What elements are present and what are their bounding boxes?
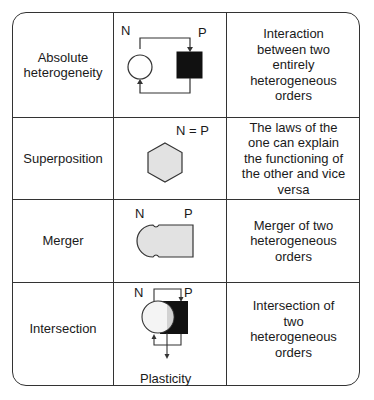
hexagon-shape — [148, 143, 182, 182]
n-label: N — [134, 285, 143, 300]
p-label: P — [184, 206, 193, 221]
p-label: P — [184, 285, 193, 300]
superposition-diagram: N = P — [140, 121, 220, 191]
description-text: Merger of two heterogeneous orders — [244, 218, 344, 265]
row-description: Intersection of two heterogeneous orders — [227, 283, 360, 375]
p-square — [177, 52, 202, 78]
row-description: The laws of the one can explain the func… — [227, 118, 360, 199]
row-name-superposition: Superposition — [13, 118, 113, 199]
row-label: Superposition — [23, 151, 103, 167]
intersection-diagram: N P Plasticity — [134, 284, 204, 388]
merged-shape — [137, 225, 193, 257]
description-text: Intersection of two heterogeneous orders — [244, 298, 344, 360]
absolute-heterogeneity-diagram: N P — [121, 24, 211, 96]
row-name-merger: Merger — [13, 200, 113, 282]
n-label: N — [135, 206, 144, 221]
n-circle — [128, 55, 152, 79]
n-equals-p-label: N = P — [176, 123, 209, 138]
merger-diagram: N P — [133, 207, 203, 269]
n-label: N — [121, 23, 130, 38]
row-label: Merger — [42, 233, 83, 249]
p-label: P — [198, 25, 207, 40]
description-text: Interaction between two entirely heterog… — [238, 26, 350, 104]
row-description: Merger of two heterogeneous orders — [227, 200, 360, 282]
row-label: Intersection — [29, 321, 96, 337]
row-name-absolute-heterogeneity: Absolute heterogeneity — [13, 13, 113, 117]
plasticity-label: Plasticity — [140, 371, 192, 386]
row-description: Interaction between two entirely heterog… — [227, 13, 360, 117]
description-text: The laws of the one can explain the func… — [238, 120, 350, 198]
row-label: Absolute heterogeneity — [23, 50, 103, 81]
row-name-intersection: Intersection — [13, 283, 113, 375]
